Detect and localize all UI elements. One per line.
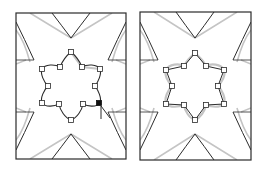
selected-anchor-point[interactable] (97, 101, 102, 106)
anchor-point[interactable] (204, 64, 209, 69)
right-frame (140, 12, 251, 160)
anchor-point[interactable] (222, 68, 227, 73)
right-panel (140, 12, 251, 160)
left-ghost-path (71, 52, 100, 69)
anchor-point[interactable] (93, 84, 98, 89)
anchor-point[interactable] (69, 118, 74, 123)
anchor-point[interactable] (40, 67, 45, 72)
right-anchors (164, 51, 227, 123)
anchor-point[interactable] (164, 102, 169, 107)
anchor-point[interactable] (57, 102, 62, 107)
left-frame (16, 13, 126, 159)
anchor-point[interactable] (46, 84, 51, 89)
anchor-point[interactable] (170, 84, 175, 89)
anchor-point[interactable] (222, 102, 227, 107)
right-corner-decorations (140, 12, 251, 160)
left-panel (16, 13, 126, 159)
anchor-point[interactable] (193, 51, 198, 56)
anchor-point[interactable] (164, 68, 169, 73)
anchor-point[interactable] (40, 101, 45, 106)
anchor-point[interactable] (58, 65, 63, 70)
anchor-point[interactable] (182, 103, 187, 108)
anchor-point[interactable] (182, 64, 187, 69)
left-anchors (40, 50, 103, 123)
anchor-point[interactable] (204, 103, 209, 108)
anchor-point[interactable] (216, 84, 221, 89)
anchor-point[interactable] (193, 118, 198, 123)
anchor-point[interactable] (81, 102, 86, 107)
anchor-point[interactable] (98, 67, 103, 72)
anchor-point[interactable] (69, 50, 74, 55)
anchor-point[interactable] (80, 65, 85, 70)
left-corner-decorations (16, 13, 126, 159)
figure-canvas (0, 0, 270, 170)
